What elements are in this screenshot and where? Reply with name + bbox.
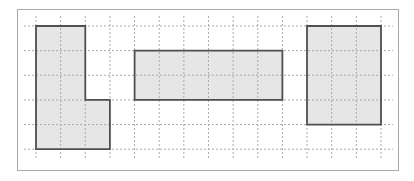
grid-diagram bbox=[0, 0, 414, 181]
l-shape-fill bbox=[36, 26, 110, 149]
